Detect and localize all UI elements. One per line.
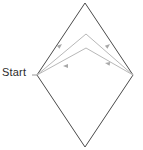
start-label: Start [2, 66, 26, 78]
diamond-path-diagram: Start [0, 0, 143, 150]
